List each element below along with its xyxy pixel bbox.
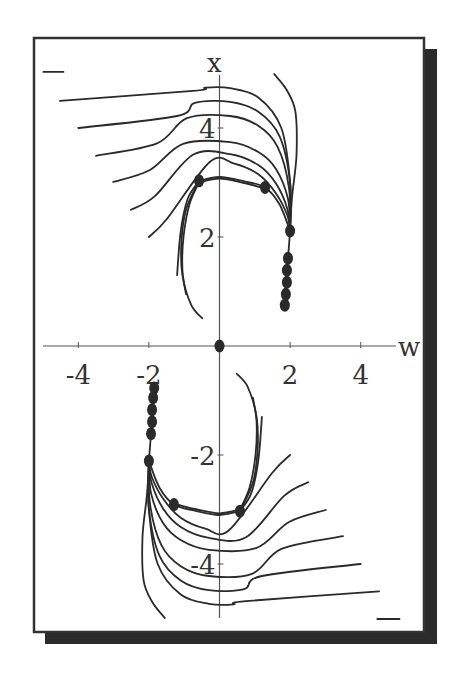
- data-point: [169, 498, 179, 511]
- data-point: [285, 225, 295, 238]
- y-tick-label: 4: [199, 114, 216, 144]
- data-point: [280, 299, 290, 312]
- data-point: [235, 505, 245, 518]
- data-point: [146, 427, 156, 440]
- data-point: [144, 454, 154, 467]
- data-point: [147, 403, 157, 416]
- x-tick-label: 2: [282, 360, 299, 390]
- data-point: [282, 264, 292, 277]
- x-tick-label: -4: [66, 360, 91, 390]
- data-point: [282, 276, 292, 289]
- data-point: [194, 174, 204, 187]
- y-tick-label: -2: [190, 441, 215, 471]
- x-tick-label: 4: [352, 360, 369, 390]
- y-tick-label: 2: [199, 223, 216, 253]
- phase-portrait-chart: -4-22442-2-4 x w: [0, 0, 464, 682]
- data-point: [149, 381, 159, 394]
- data-point: [283, 252, 293, 265]
- data-point: [260, 181, 270, 194]
- data-point: [147, 415, 157, 428]
- x-axis-label: w: [398, 332, 420, 362]
- data-point: [215, 340, 225, 353]
- y-axis-label: x: [207, 48, 222, 78]
